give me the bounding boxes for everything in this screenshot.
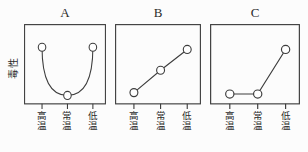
chart-title-a: A [24,4,106,24]
x-tick-label: 低温 [281,111,291,131]
x-tick-label: 高温 [37,111,47,131]
chart-title-c: C [210,4,300,24]
plot-c [210,24,300,110]
chart-panel-c: C 高温常温低温 [210,4,300,148]
chart-panel-b: B 高温常温低温 [115,4,201,148]
y-axis-label-wrap: 毒性 [0,24,24,110]
plot-b [115,24,201,110]
x-tick-label: 低温 [88,111,98,131]
plot-area-b [115,24,201,110]
x-tick-label: 高温 [225,111,235,131]
toxicity-temperature-figure: 毒性 A 高温常温低温 B 高温常温低温 C 高温常温低温 [0,0,308,152]
plot-area-c [210,24,300,110]
y-axis-label: 毒性 [5,56,20,78]
x-axis-labels-b: 高温常温低温 [115,110,201,148]
x-axis-labels-c: 高温常温低温 [210,110,300,148]
plot-a [24,24,106,110]
x-tick-label: 常温 [156,111,166,131]
x-axis-labels-a: 高温常温低温 [24,110,106,148]
chart-title-b: B [115,4,201,24]
plot-area-a [24,24,106,110]
x-tick-label: 高温 [129,111,139,131]
chart-panels: A 高温常温低温 B 高温常温低温 C 高温常温低温 [24,4,300,148]
x-tick-label: 常温 [62,111,72,131]
chart-panel-a: A 高温常温低温 [24,4,106,148]
x-tick-label: 常温 [253,111,263,131]
x-tick-label: 低温 [182,111,192,131]
